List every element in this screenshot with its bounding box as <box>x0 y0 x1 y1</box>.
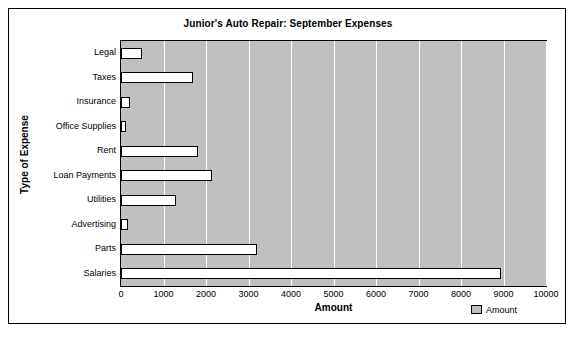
chart-title: Junior's Auto Repair: September Expenses <box>9 18 567 29</box>
y-tick-office-supplies: Office Supplies <box>12 121 116 131</box>
x-tick-3000: 3000 <box>229 289 269 299</box>
gridline-10000 <box>546 41 547 286</box>
chart-border: Junior's Auto Repair: September Expenses… <box>8 8 566 324</box>
x-tick-7000: 7000 <box>399 289 439 299</box>
y-tick-loan-payments: Loan Payments <box>12 170 116 180</box>
gridline-8000 <box>461 41 462 286</box>
x-axis-tick-labels: 0100020003000400050006000700080009000100… <box>120 289 549 303</box>
gridline-6000 <box>376 41 377 286</box>
y-tick-salaries: Salaries <box>12 268 116 278</box>
bar-office-supplies <box>121 121 126 132</box>
plot-inner <box>121 41 546 286</box>
bar-taxes <box>121 72 193 83</box>
bar-loan-payments <box>121 170 212 181</box>
bar-parts <box>121 244 257 255</box>
y-tick-insurance: Insurance <box>12 96 116 106</box>
y-tick-parts: Parts <box>12 243 116 253</box>
y-tick-rent: Rent <box>12 145 116 155</box>
x-tick-0: 0 <box>101 289 141 299</box>
bar-advertising <box>121 219 128 230</box>
chart-container: Junior's Auto Repair: September Expenses… <box>0 0 576 340</box>
legend: Amount <box>471 302 517 317</box>
bar-utilities <box>121 195 176 206</box>
y-tick-advertising: Advertising <box>12 219 116 229</box>
bar-legal <box>121 48 142 59</box>
x-tick-5000: 5000 <box>314 289 354 299</box>
bar-rent <box>121 146 198 157</box>
bar-insurance <box>121 97 130 108</box>
x-tick-10000: 10000 <box>526 289 566 299</box>
gridline-7000 <box>419 41 420 286</box>
gridline-5000 <box>334 41 335 286</box>
x-tick-4000: 4000 <box>271 289 311 299</box>
y-tick-utilities: Utilities <box>12 194 116 204</box>
y-tick-legal: Legal <box>12 47 116 57</box>
x-tick-6000: 6000 <box>356 289 396 299</box>
x-tick-8000: 8000 <box>441 289 481 299</box>
x-tick-9000: 9000 <box>484 289 524 299</box>
gridline-4000 <box>291 41 292 286</box>
y-axis-tick-labels: LegalTaxesInsuranceOffice SuppliesRentLo… <box>9 40 116 287</box>
y-tick-taxes: Taxes <box>12 72 116 82</box>
plot-area <box>120 40 547 287</box>
bar-salaries <box>121 268 501 279</box>
x-tick-2000: 2000 <box>186 289 226 299</box>
legend-label-amount: Amount <box>486 305 517 315</box>
legend-swatch-amount <box>471 305 482 314</box>
x-tick-1000: 1000 <box>144 289 184 299</box>
gridline-9000 <box>504 41 505 286</box>
